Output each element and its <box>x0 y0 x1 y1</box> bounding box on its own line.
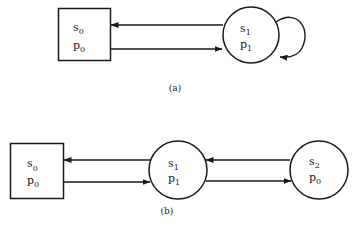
circle-node-shape <box>290 141 348 199</box>
diagram-a: s0 p0 s1 p1 (a) <box>59 7 306 93</box>
caption-a: (a) <box>169 83 181 93</box>
node-b-s0: s0 p0 <box>11 144 64 199</box>
caption-b: (b) <box>161 206 174 216</box>
state-diagram-canvas: s0 p0 s1 p1 (a) s0 p0 s1 p1 <box>0 0 362 226</box>
node-b-s2: s2 p0 <box>290 141 348 199</box>
node-b-s1: s1 p1 <box>149 141 207 199</box>
diagram-b: s0 p0 s1 p1 s2 p0 (b) <box>11 141 349 216</box>
self-loop-a-s1 <box>276 17 305 57</box>
node-a-s1: s1 p1 <box>223 7 279 63</box>
node-a-s0: s0 p0 <box>59 9 111 61</box>
circle-node-shape <box>223 7 279 63</box>
